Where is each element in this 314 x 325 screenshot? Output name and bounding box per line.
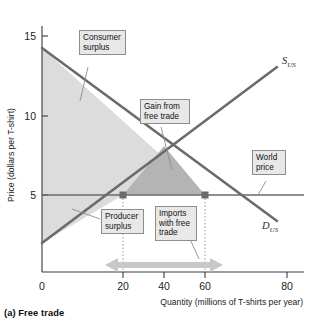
figure-free-trade: 15 10 5 0 20 40 60 80 Price (dollars per… (0, 0, 314, 325)
x-tick-label-0: 0 (39, 280, 45, 292)
y-tick-label-5: 5 (30, 189, 36, 201)
y-tick-label-10: 10 (24, 110, 36, 122)
y-axis-title: Price (dollars per T-shirt) (6, 108, 16, 202)
callout-imports-with-free-trade: Imports with free trade (155, 206, 197, 241)
x-tick-label-60: 60 (199, 280, 211, 292)
demand-curve-label: DUS (261, 220, 279, 234)
figure-caption: (a) Free trade (4, 308, 64, 318)
leader-world-price (258, 181, 266, 195)
marker-supply-at-world-price (120, 192, 127, 199)
demand-label-sub: US (270, 226, 279, 234)
marker-demand-at-world-price (202, 192, 209, 199)
callout-world-price: World price (252, 150, 286, 175)
callout-producer-surplus: Producer surplus (101, 209, 144, 234)
x-tick-label-40: 40 (158, 280, 170, 292)
callout-gain-from-free-trade: Gain from free trade (140, 99, 190, 124)
supply-curve-label: SUS (282, 55, 296, 69)
leader-imports (190, 239, 199, 259)
callout-consumer-surplus: Consumer surplus (79, 30, 126, 55)
x-tick-label-20: 20 (117, 280, 129, 292)
y-tick-label-15: 15 (24, 30, 36, 42)
x-tick-label-80: 80 (281, 280, 293, 292)
x-axis-title: Quantity (millions of T-shirts per year) (160, 297, 303, 307)
supply-label-sub: US (287, 61, 296, 69)
